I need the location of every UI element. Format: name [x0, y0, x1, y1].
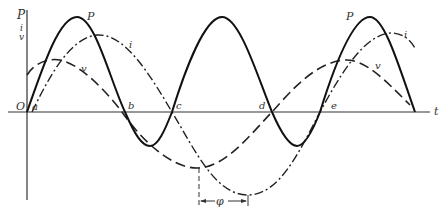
point-label-a: a [32, 101, 38, 112]
phase-arrow-right [241, 199, 247, 203]
power-curve [27, 17, 415, 146]
phase-arrow-left [200, 199, 206, 203]
curve-label-i1: i [129, 39, 132, 50]
curve-label-P2: P [345, 10, 354, 23]
phase-label: φ [216, 195, 224, 208]
point-label-c: c [176, 100, 182, 111]
point-label-e: e [331, 100, 337, 111]
curve-label-v2: v [375, 60, 381, 71]
point-label-b: b [128, 100, 134, 111]
y-label-P: P [16, 8, 26, 22]
x-label-t: t [434, 105, 439, 118]
voltage-curve [27, 60, 410, 168]
point-label-d: d [259, 100, 265, 111]
current-curve [32, 33, 416, 195]
curve-label-P1: P [86, 10, 95, 23]
curve-label-v1: v [81, 63, 87, 74]
origin-label: O [16, 100, 25, 113]
curve-label-i2: i [404, 29, 407, 40]
power-voltage-current-diagram: φ P i v O t P i v P i v a b c d e [0, 0, 444, 212]
y-label-v: v [19, 32, 24, 42]
